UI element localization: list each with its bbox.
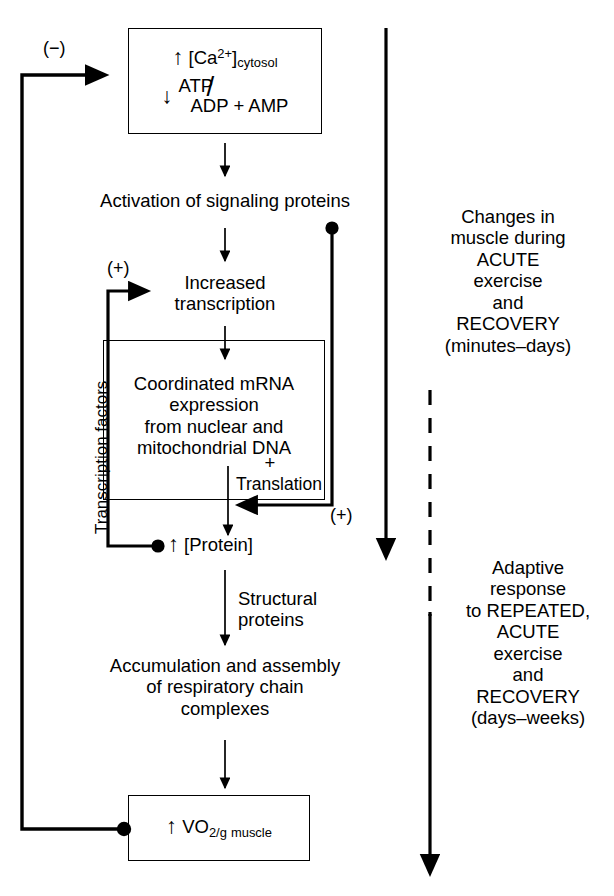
protein-label: [Protein] bbox=[184, 534, 253, 555]
mrna-line4: mitochondrial DNA bbox=[104, 437, 324, 458]
accumulation-line3: complexes bbox=[48, 698, 402, 719]
translation-text: Translation bbox=[236, 474, 322, 494]
mrna-line2: expression bbox=[104, 394, 324, 415]
diagram-canvas: ↑ [Ca2+]cytosol ↓ ATP ADP + AMP / Activa… bbox=[0, 0, 614, 896]
acute-line1: Changes in bbox=[408, 206, 608, 227]
calcium-charge: 2+ bbox=[217, 46, 232, 61]
vo2-label: VO bbox=[182, 816, 209, 837]
increased-transcription: Increased transcription bbox=[150, 272, 300, 315]
translation-plus-label: + bbox=[265, 452, 276, 473]
adaptive-line5: exercise bbox=[442, 643, 614, 664]
stimulus-box: ↑ [Ca2+]cytosol ↓ ATP ADP + AMP / bbox=[128, 28, 322, 134]
acute-line6: RECOVERY bbox=[408, 313, 608, 334]
acute-line7: (minutes–days) bbox=[408, 335, 608, 356]
vo2-line: ↑ VO2/gmuscle bbox=[166, 816, 272, 840]
translation-label: Translation bbox=[236, 474, 348, 494]
activation-of-signaling-proteins: Activation of signaling proteins bbox=[55, 190, 395, 211]
acute-line4: exercise bbox=[408, 270, 608, 291]
adaptive-line4: ACUTE bbox=[442, 621, 614, 642]
adaptive-line1: Adaptive bbox=[442, 557, 614, 578]
transcription-factors-text: Transcription factors bbox=[92, 381, 111, 534]
vo2-subscript: 2/g bbox=[209, 825, 227, 840]
vo2-up-arrow-icon: ↑ bbox=[166, 813, 177, 838]
acute-timescale-text: Changes in muscle during ACUTE exercise … bbox=[408, 206, 608, 356]
vo2-unit: muscle bbox=[231, 825, 272, 840]
adaptive-line2: response bbox=[442, 578, 614, 599]
accumulation-line2: of respiratory chain bbox=[48, 676, 402, 697]
translation-plus-sign: + bbox=[258, 452, 282, 473]
adaptive-line7: RECOVERY bbox=[442, 686, 614, 707]
positive-sign-translation-text: (+) bbox=[330, 505, 353, 525]
acute-line3: ACUTE bbox=[408, 249, 608, 270]
accumulation-node: Accumulation and assembly of respiratory… bbox=[48, 655, 402, 719]
atp-ratio: ATP ADP + AMP / bbox=[177, 75, 289, 116]
acute-line2: muscle during bbox=[408, 227, 608, 248]
up-arrow-icon: ↑ bbox=[172, 44, 183, 69]
calcium-compartment: cytosol bbox=[237, 55, 277, 70]
structural-proteins-line1: Structural bbox=[238, 588, 388, 609]
calcium-open: [Ca bbox=[189, 47, 218, 68]
negative-sign-label: (−) bbox=[43, 38, 66, 59]
down-arrow-icon: ↓ bbox=[162, 87, 173, 104]
increased-transcription-line1: Increased bbox=[150, 272, 300, 293]
mrna-line3: from nuclear and bbox=[104, 416, 324, 437]
atp-denominator: ADP + AMP bbox=[177, 95, 289, 116]
adaptive-line6: and bbox=[442, 664, 614, 685]
adaptive-line8: (days–weeks) bbox=[442, 707, 614, 728]
atp-numerator: ATP bbox=[177, 75, 289, 96]
protein-node: ↑ [Protein] bbox=[168, 534, 318, 555]
calcium-line: ↑ [Ca2+]cytosol bbox=[172, 46, 277, 70]
positive-sign-translation-label: (+) bbox=[330, 505, 353, 526]
adaptive-line3: to REPEATED, bbox=[442, 600, 614, 621]
structural-proteins-label: Structural proteins bbox=[238, 588, 388, 631]
vo2-box: ↑ VO2/gmuscle bbox=[128, 795, 310, 861]
fraction-slash-icon: / bbox=[207, 73, 215, 101]
acute-line5: and bbox=[408, 292, 608, 313]
transcription-factors-label: Transcription factors bbox=[92, 381, 112, 534]
negative-sign-text: (−) bbox=[43, 38, 66, 58]
positive-sign-transcription-text: (+) bbox=[107, 258, 130, 278]
structural-proteins-line2: proteins bbox=[238, 609, 388, 630]
adaptive-timescale-text: Adaptive response to REPEATED, ACUTE exe… bbox=[442, 557, 614, 729]
mrna-line1: Coordinated mRNA bbox=[104, 373, 324, 394]
accumulation-line1: Accumulation and assembly bbox=[48, 655, 402, 676]
positive-sign-transcription-label: (+) bbox=[107, 258, 130, 279]
increased-transcription-line2: transcription bbox=[150, 293, 300, 314]
atp-ratio-line: ↓ ATP ADP + AMP / bbox=[162, 75, 289, 116]
protein-up-arrow-icon: ↑ bbox=[168, 531, 179, 556]
activation-label: Activation of signaling proteins bbox=[100, 190, 350, 211]
